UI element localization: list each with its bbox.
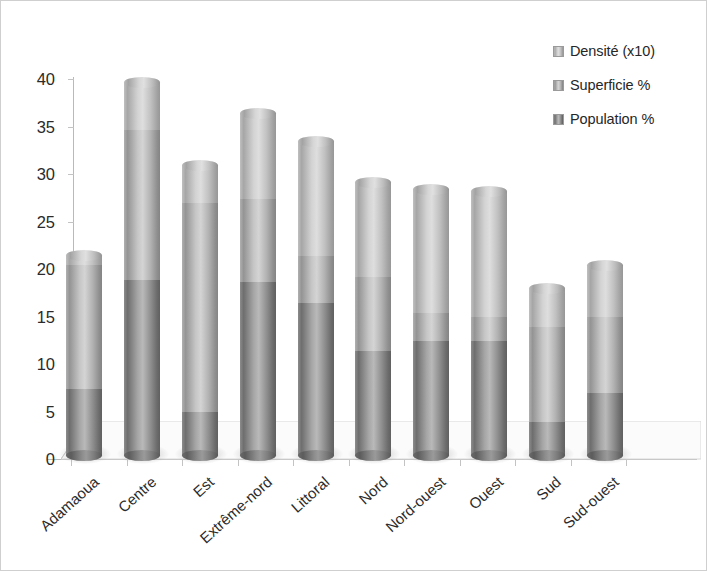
bar-segment-superficie[interactable] <box>66 265 102 389</box>
cylinder-top-cap <box>298 136 334 147</box>
bar-segment-superficie[interactable] <box>124 130 160 280</box>
bar-segment-densite[interactable] <box>298 142 334 256</box>
y-axis-tick-10: 10 <box>21 355 55 374</box>
bar-segment-superficie[interactable] <box>298 256 334 304</box>
bar-segment-densite[interactable] <box>66 256 102 266</box>
bar-segment-densite[interactable] <box>471 192 507 317</box>
cylinder-bottom-cap <box>355 450 391 461</box>
bar-segment-population[interactable] <box>587 393 623 455</box>
x-label-sud-ouest: Sud-ouest <box>560 473 622 531</box>
x-label-littoral: Littoral <box>288 473 333 516</box>
cylinder-top-cap <box>66 250 102 261</box>
y-tickmark <box>68 79 74 80</box>
y-axis-tick-40: 40 <box>21 70 55 89</box>
chart-page: Densité (x10) Superficie % Population % … <box>0 0 707 571</box>
bar-segment-superficie[interactable] <box>240 199 276 283</box>
bar-segment-superficie[interactable] <box>587 317 623 393</box>
y-axis-tick-25: 25 <box>21 212 55 231</box>
bar-stack <box>66 256 102 456</box>
bar-segment-population[interactable] <box>413 341 449 455</box>
bar-segment-densite[interactable] <box>587 265 623 317</box>
bar-segment-population[interactable] <box>529 422 565 455</box>
cylinder-top-cap <box>587 260 623 271</box>
bar-stack <box>471 192 507 455</box>
y-axis-tick-30: 30 <box>21 165 55 184</box>
bar-segment-densite[interactable] <box>240 113 276 199</box>
y-tickmark <box>68 222 74 223</box>
y-tickmark <box>68 174 74 175</box>
bar-stack <box>240 113 276 455</box>
bar-segment-population[interactable] <box>471 341 507 455</box>
x-label-sud: Sud <box>533 473 564 504</box>
y-axis-tick-5: 5 <box>21 402 55 421</box>
cylinder-bottom-cap <box>124 450 160 461</box>
cylinder-bottom-cap <box>298 450 334 461</box>
bar-segment-population[interactable] <box>298 303 334 455</box>
bar-segment-densite[interactable] <box>182 165 218 203</box>
bar-segment-densite[interactable] <box>413 189 449 313</box>
bar-stack <box>587 265 623 455</box>
bar-segment-densite[interactable] <box>355 182 391 277</box>
bar-segment-superficie[interactable] <box>355 277 391 350</box>
cylinder-bottom-cap <box>182 450 218 461</box>
bar-stack <box>413 189 449 455</box>
cylinder-top-cap <box>471 186 507 197</box>
bar-stack <box>182 165 218 455</box>
x-label-centre: Centre <box>115 473 160 516</box>
cylinder-bottom-cap <box>471 450 507 461</box>
y-axis-tick-labels: 4035302520151050 <box>21 1 55 571</box>
bar-stack <box>298 142 334 456</box>
bar-segment-population[interactable] <box>355 351 391 456</box>
x-label-ouest: Ouest <box>465 473 506 512</box>
y-tickmark <box>68 127 74 128</box>
bar-segment-densite[interactable] <box>529 289 565 327</box>
bar-segment-superficie[interactable] <box>413 313 449 342</box>
cylinder-top-cap <box>124 77 160 88</box>
x-label-nord: Nord <box>355 473 391 507</box>
bar-stack <box>529 289 565 455</box>
bar-segment-superficie[interactable] <box>471 317 507 341</box>
cylinder-top-cap <box>355 177 391 188</box>
cylinder-top-cap <box>240 108 276 119</box>
bar-segment-superficie[interactable] <box>529 327 565 422</box>
cylinder-bottom-cap <box>529 450 565 461</box>
bar-segment-population[interactable] <box>124 280 160 455</box>
cylinder-top-cap <box>529 283 565 294</box>
plot-area: 4035302520151050 AdamaouaCentreEstExtrêm… <box>1 1 707 571</box>
bar-segment-population[interactable] <box>66 389 102 456</box>
cylinder-bottom-cap <box>587 450 623 461</box>
x-label-est: Est <box>190 473 217 500</box>
y-axis-tick-20: 20 <box>21 260 55 279</box>
bar-segment-densite[interactable] <box>124 83 160 131</box>
y-axis-tick-35: 35 <box>21 117 55 136</box>
bar-segment-superficie[interactable] <box>182 203 218 412</box>
y-axis-tick-15: 15 <box>21 307 55 326</box>
cylinder-bottom-cap <box>240 450 276 461</box>
bar-segment-population[interactable] <box>240 282 276 455</box>
bar-stack <box>355 182 391 455</box>
cylinder-bottom-cap <box>66 450 102 461</box>
cylinder-bottom-cap <box>413 450 449 461</box>
bar-stack <box>124 83 160 455</box>
cylinder-top-cap <box>413 184 449 195</box>
y-axis-tick-0: 0 <box>21 450 55 469</box>
bar-segment-population[interactable] <box>182 412 218 455</box>
cylinder-top-cap <box>182 160 218 171</box>
x-label-nord-ouest: Nord-ouest <box>382 473 449 535</box>
